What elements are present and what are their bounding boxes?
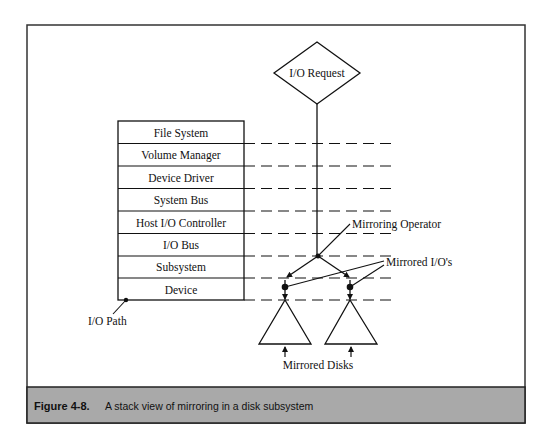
layer-host-io-controller: Host I/O Controller <box>136 217 226 229</box>
figure-caption: A stack view of mirroring in a disk subs… <box>105 400 314 412</box>
layer-device: Device <box>165 284 198 296</box>
layer-volume-manager: Volume Manager <box>141 149 220 162</box>
figure-frame <box>27 25 525 423</box>
io-request-label: I/O Request <box>289 67 345 80</box>
mirrored-disks-label: Mirrored Disks <box>283 359 354 371</box>
mirroring-operator-label: Mirroring Operator <box>352 218 441 231</box>
layer-system-bus: System Bus <box>154 194 209 207</box>
mirrored-ios-label: Mirrored I/O's <box>386 256 453 268</box>
layer-io-bus: I/O Bus <box>163 239 200 251</box>
layer-subsystem: Subsystem <box>156 261 206 274</box>
stack-view-diagram: Figure 4-8. A stack view of mirroring in… <box>0 0 551 437</box>
layer-file-system: File System <box>154 127 209 140</box>
layer-device-driver: Device Driver <box>148 172 214 184</box>
figure-label: Figure 4-8. <box>34 400 90 412</box>
io-path-label: I/O Path <box>88 315 127 327</box>
